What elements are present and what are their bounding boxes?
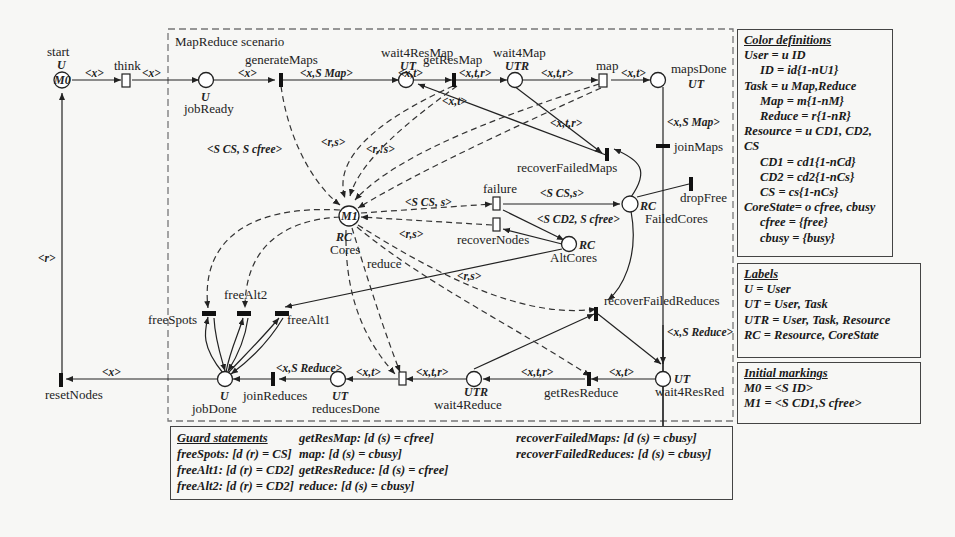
arc-label: <x> xyxy=(102,366,121,378)
place-name-failedCores: FailedCores xyxy=(645,211,708,226)
transition-freeAlt2[interactable] xyxy=(237,311,251,316)
arc-label: <S CS, s> xyxy=(405,196,452,208)
transition-failure[interactable] xyxy=(493,197,500,210)
place-name-wait4Reduce: wait4Reduce xyxy=(434,397,502,412)
transition-label-think: think xyxy=(114,58,141,73)
color-definitions-panel: Color definitions User = u ID ID = id{1-… xyxy=(737,29,893,257)
guard-statements-panel: Guard statements freeSpots: [d (r) = CS]… xyxy=(170,426,733,500)
arc-label: <x,t,r> xyxy=(541,67,574,79)
transition-generateMaps[interactable] xyxy=(279,73,283,87)
label-line: UT = User, Task xyxy=(744,297,914,312)
color-def-line: CD2 = cd2{1-nCs} xyxy=(744,170,886,185)
arc-label: <r,s> xyxy=(399,228,424,240)
arc-label: <x> xyxy=(142,67,161,79)
transition-label-joinReduces: joinReduces xyxy=(242,388,307,403)
guard-line: reduce: [d (s) = cbusy] xyxy=(299,478,448,494)
label-line: UTR = User, Task, Resource xyxy=(744,313,914,328)
arc-label: <x,S Reduce> xyxy=(276,362,343,374)
transition-map[interactable] xyxy=(599,74,607,87)
transition-label-recoverFailedReduces: recoverFailedReduces xyxy=(604,293,720,308)
initial-markings-title: Initial markings xyxy=(744,366,914,381)
place-color-start: U xyxy=(57,58,67,72)
arc-label: <r,!s> xyxy=(366,143,395,155)
transition-label-getResMap: getResMap xyxy=(423,52,482,67)
place-wait4Map[interactable] xyxy=(508,73,523,88)
color-def-line: ID = id{1-nU1} xyxy=(744,63,886,78)
guard-line: freeSpots: [d (r) = CS] xyxy=(177,446,294,462)
arc-label: <r,s> xyxy=(321,136,346,148)
color-def-line: cfree = {free} xyxy=(744,215,886,230)
label-line: U = User xyxy=(744,282,914,297)
arc-label: <x,t,r> xyxy=(459,67,492,79)
color-def-line: Map = m{1-nM} xyxy=(744,94,886,109)
place-name-reducesDone: reducesDone xyxy=(312,401,380,416)
transition-resetNodes[interactable] xyxy=(59,373,63,387)
marking-line: M0 = <S ID> xyxy=(744,381,914,396)
transition-label-dropFree: dropFree xyxy=(680,190,727,205)
arc-label: <S CS, S cfree> xyxy=(207,143,283,156)
marking-m0: M0 xyxy=(53,73,71,87)
color-def-line: Resource = u CD1, CD2, CS xyxy=(744,124,886,154)
transition-label-failure: failure xyxy=(483,181,517,196)
arc-label: <x,t> xyxy=(398,67,423,79)
transition-label-recoverNodes: recoverNodes xyxy=(457,232,529,247)
arc-label: <x,t,r> xyxy=(416,366,449,378)
guard-line: freeAlt2: [d (r) = CD2] xyxy=(177,478,294,494)
transition-joinReduces[interactable] xyxy=(271,372,275,386)
transition-think[interactable] xyxy=(122,74,130,87)
transition-label-freeSpots: freeSpots xyxy=(148,312,197,327)
arc-label: <r> xyxy=(38,252,56,264)
label-line: RC = Resource, CoreState xyxy=(744,328,914,343)
guard-line: getResMap: [d (s) = cfree] xyxy=(299,430,448,446)
marking-m1: M1 xyxy=(340,209,358,223)
arc-label: <x> xyxy=(85,67,104,79)
transition-dropFree[interactable] xyxy=(689,177,693,191)
transition-label-generateMaps: generateMaps xyxy=(245,52,318,67)
arc-label: <x,S Map> xyxy=(667,116,720,129)
transition-joinMaps[interactable] xyxy=(656,144,670,148)
place-name-start: start xyxy=(47,44,70,59)
scenario-title: MapReduce scenario xyxy=(175,34,284,49)
place-color-mapsDone: UT xyxy=(688,77,705,91)
transition-label-freeAlt2: freeAlt2 xyxy=(224,287,267,302)
arc-label: <x,t,r> xyxy=(521,366,554,378)
labels-panel: Labels U = User UT = User, Task UTR = Us… xyxy=(737,263,921,358)
place-name-jobReady: jobReady xyxy=(183,101,234,116)
arc-label: <x,S Map> xyxy=(300,67,353,80)
place-mapsDone[interactable] xyxy=(651,73,666,88)
place-name-jobDone: jobDone xyxy=(191,401,237,416)
color-def-line: Task = u Map,Reduce xyxy=(744,79,886,94)
transition-label-recoverFailedMaps: recoverFailedMaps xyxy=(517,160,617,175)
place-name-cores: Cores xyxy=(330,242,360,257)
transition-recoverFailedReduces[interactable] xyxy=(594,307,598,321)
place-jobReady[interactable] xyxy=(199,73,214,88)
arc-label: <x,t> xyxy=(356,366,381,378)
transition-recoverNodes[interactable] xyxy=(493,218,500,231)
place-jobDone[interactable] xyxy=(218,372,233,387)
arc-label: <x> xyxy=(238,67,257,79)
place-failedCores[interactable] xyxy=(622,196,638,212)
transition-getResReduce[interactable] xyxy=(587,372,591,386)
place-name-wait4ResRed: wait4ResRed xyxy=(655,384,725,399)
place-name-mapsDone: mapsDone xyxy=(671,61,727,76)
marking-line: M1 = <S CD1,S cfree> xyxy=(744,396,914,411)
initial-markings-panel: Initial markings M0 = <S ID> M1 = <S CD1… xyxy=(737,362,921,424)
color-def-line: CS = cs{1-nCs} xyxy=(744,185,886,200)
arc-label: <x,t> xyxy=(621,67,646,79)
labels-title: Labels xyxy=(744,267,914,282)
color-def-line: CoreState= o cfree, cbusy xyxy=(744,200,886,215)
color-def-line: Reduce = r{1-nR} xyxy=(744,109,886,124)
guard-statements-title: Guard statements xyxy=(177,430,294,446)
arc-label: <x,t,r> xyxy=(550,117,583,129)
arc-label: <r,s> xyxy=(457,270,482,282)
arc-label: <x,S Reduce> xyxy=(667,326,734,338)
transition-reduce[interactable] xyxy=(399,372,406,385)
transition-label-resetNodes: resetNodes xyxy=(45,387,103,402)
transition-getResMap[interactable] xyxy=(452,73,456,87)
transition-label-getResReduce: getResReduce xyxy=(544,385,619,400)
transition-label-map: map xyxy=(596,58,618,73)
place-name-wait4Map: wait4Map xyxy=(493,45,546,60)
arc-label: <S CS,s> xyxy=(540,187,584,199)
arc-label: <x,t> xyxy=(609,366,634,378)
transition-freeSpots[interactable] xyxy=(202,311,216,316)
